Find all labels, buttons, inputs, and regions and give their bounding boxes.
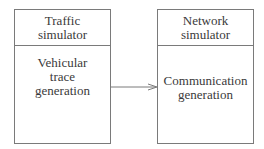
communication-generation-section: Communication generation: [158, 45, 253, 143]
network-simulator-block: Network simulator Communication generati…: [157, 9, 254, 144]
network-simulator-header: Network simulator: [158, 10, 253, 46]
arrow-connector-icon: [110, 82, 158, 92]
body-line: generation: [35, 84, 90, 98]
body-line: Communication: [164, 74, 248, 88]
traffic-simulator-block: Traffic simulator Vehicular trace genera…: [14, 9, 111, 144]
body-line: Vehicular: [38, 56, 88, 70]
traffic-simulator-header: Traffic simulator: [15, 10, 110, 46]
header-line: simulator: [38, 28, 87, 42]
vehicular-trace-generation-section: Vehicular trace generation: [15, 45, 110, 143]
header-line: Network: [183, 14, 229, 28]
body-line: generation: [178, 88, 233, 102]
header-line: simulator: [181, 28, 230, 42]
body-line: trace: [50, 70, 75, 84]
header-line: Traffic: [45, 14, 80, 28]
